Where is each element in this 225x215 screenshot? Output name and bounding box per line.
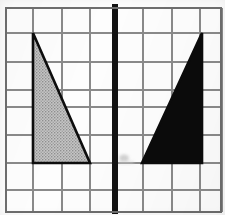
reflection-figure: [0, 0, 225, 215]
figure-canvas: [0, 0, 225, 215]
